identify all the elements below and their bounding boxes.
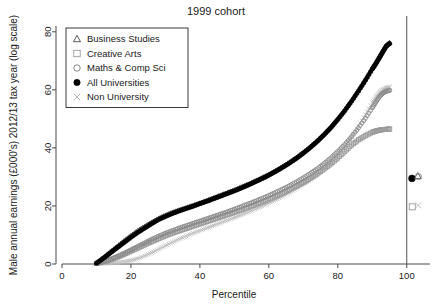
x-tick-label: 0 bbox=[59, 270, 64, 281]
chart-container: 1999 cohort Male annual earnings (£000's… bbox=[0, 0, 433, 305]
chart-legend: Business StudiesCreative ArtsMaths & Com… bbox=[66, 28, 188, 108]
earnings-percentile-scatter-plot: 1999 cohort Male annual earnings (£000's… bbox=[0, 0, 433, 305]
x-tick-label: 80 bbox=[333, 270, 344, 281]
legend-item-maths-comp-sci[interactable]: Maths & Comp Sci bbox=[74, 62, 166, 73]
data-point bbox=[387, 41, 391, 45]
x-tick-label: 100 bbox=[399, 270, 415, 281]
mean-marker-creative-arts bbox=[409, 204, 415, 210]
y-tick-label: 40 bbox=[42, 143, 53, 154]
y-axis-label: Male annual earnings (£000's) 2012/13 ta… bbox=[8, 15, 19, 275]
x-tick-label: 60 bbox=[264, 270, 275, 281]
legend-label: Business Studies bbox=[87, 33, 160, 44]
legend-marker-circle-filled bbox=[74, 79, 80, 85]
series-maths-comp-sci bbox=[94, 88, 391, 265]
y-tick-label: 80 bbox=[42, 27, 53, 38]
y-tick-label: 60 bbox=[42, 85, 53, 96]
legend-label: All Universities bbox=[87, 77, 150, 88]
legend-label: Creative Arts bbox=[87, 48, 142, 59]
y-tick-label: 20 bbox=[42, 201, 53, 212]
chart-title: 1999 cohort bbox=[187, 5, 245, 17]
y-tick-label: 0 bbox=[42, 261, 53, 266]
legend-item-business-studies[interactable]: Business Studies bbox=[73, 33, 160, 44]
mean-markers-group bbox=[409, 173, 422, 210]
x-tick-label: 40 bbox=[195, 270, 206, 281]
x-tick-label: 20 bbox=[126, 270, 137, 281]
legend-label: Non University bbox=[87, 91, 149, 102]
mean-marker-non-university bbox=[415, 202, 421, 208]
legend-label: Maths & Comp Sci bbox=[87, 62, 166, 73]
x-axis-label: Percentile bbox=[212, 289, 257, 300]
